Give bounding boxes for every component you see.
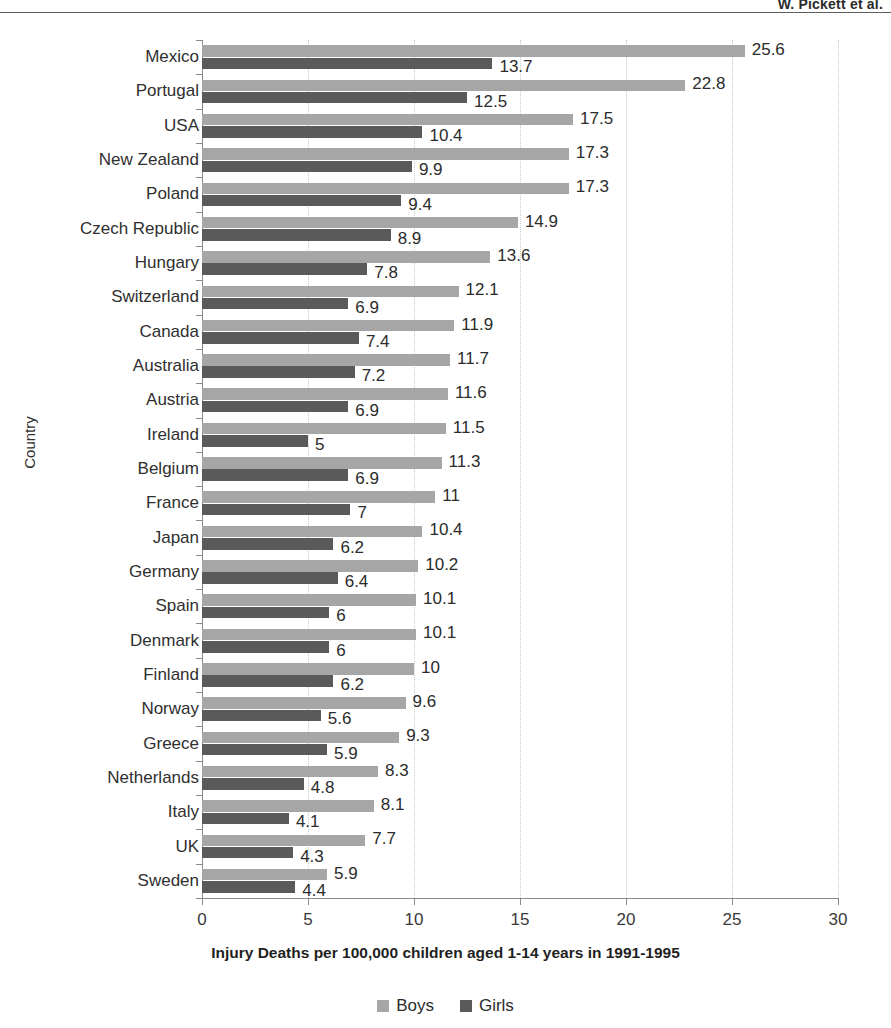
- value-label-girls: 4.4: [302, 881, 326, 901]
- value-label-girls: 6.2: [340, 675, 364, 695]
- y-axis-title: Country: [21, 398, 38, 488]
- category-label: Germany: [129, 562, 199, 582]
- value-label-boys: 7.7: [372, 829, 396, 849]
- category-label: Italy: [168, 802, 199, 822]
- value-label-girls: 6: [336, 606, 345, 626]
- x-tick-mark: [732, 898, 733, 905]
- value-label-boys: 12.1: [466, 280, 499, 300]
- legend-label: Girls: [479, 996, 514, 1016]
- x-tick-label: 0: [197, 910, 206, 930]
- x-tick-mark: [202, 898, 203, 905]
- y-tick-mark: [196, 658, 202, 659]
- bar-boys: [202, 45, 745, 57]
- value-label-boys: 17.3: [576, 143, 609, 163]
- bar-boys: [202, 732, 399, 744]
- value-label-boys: 5.9: [334, 864, 358, 884]
- bar-girls: [202, 641, 329, 653]
- bar-boys: [202, 148, 569, 160]
- bar-boys: [202, 629, 416, 641]
- x-tick-label: 20: [617, 910, 636, 930]
- category-label: Mexico: [145, 47, 199, 67]
- value-label-girls: 5.9: [334, 744, 358, 764]
- value-label-girls: 7.8: [374, 263, 398, 283]
- bar-girls: [202, 813, 289, 825]
- category-label: Netherlands: [107, 768, 199, 788]
- legend-swatch-icon: [377, 1000, 389, 1012]
- y-tick-mark: [196, 864, 202, 865]
- bar-girls: [202, 401, 348, 413]
- y-tick-mark: [196, 555, 202, 556]
- bar-boys: [202, 697, 406, 709]
- bar-girls: [202, 778, 304, 790]
- legend-swatch-icon: [460, 1000, 472, 1012]
- value-label-girls: 6: [336, 641, 345, 661]
- y-tick-mark: [196, 418, 202, 419]
- y-tick-mark: [196, 623, 202, 624]
- bar-chart: 051015202530 MexicoPortugalUSANew Zealan…: [0, 24, 891, 1028]
- value-label-boys: 8.3: [385, 761, 409, 781]
- x-tick-label: 10: [405, 910, 424, 930]
- category-label: Australia: [133, 356, 199, 376]
- bar-girls: [202, 607, 329, 619]
- bar-boys: [202, 491, 435, 503]
- bar-boys: [202, 766, 378, 778]
- legend-entry: Boys: [377, 996, 434, 1016]
- value-label-boys: 25.6: [752, 40, 785, 60]
- value-label-boys: 11.7: [457, 349, 489, 369]
- value-label-girls: 6.9: [355, 401, 379, 421]
- legend-label: Boys: [396, 996, 434, 1016]
- value-label-boys: 10.1: [423, 589, 456, 609]
- bar-boys: [202, 251, 490, 263]
- x-tick-label: 25: [723, 910, 742, 930]
- bar-girls: [202, 263, 367, 275]
- bar-boys: [202, 320, 454, 332]
- value-label-girls: 8.9: [398, 229, 422, 249]
- y-tick-mark: [196, 829, 202, 830]
- value-label-girls: 5: [315, 435, 324, 455]
- bar-boys: [202, 80, 685, 92]
- bar-boys: [202, 526, 422, 538]
- bar-boys: [202, 354, 450, 366]
- value-label-girls: 6.9: [355, 469, 379, 489]
- bar-girls: [202, 675, 333, 687]
- value-label-boys: 22.8: [692, 74, 725, 94]
- bar-boys: [202, 663, 414, 675]
- category-label: Switzerland: [111, 287, 199, 307]
- bar-girls: [202, 744, 327, 756]
- bar-girls: [202, 504, 350, 516]
- value-label-boys: 10: [421, 658, 440, 678]
- bar-girls: [202, 92, 467, 104]
- running-head: W. Pickett et al.: [778, 0, 883, 12]
- value-label-boys: 10.1: [423, 623, 456, 643]
- value-label-girls: 4.1: [296, 812, 320, 832]
- x-tick-label: 15: [511, 910, 530, 930]
- value-label-girls: 13.7: [499, 57, 532, 77]
- bar-boys: [202, 800, 374, 812]
- y-tick-mark: [196, 761, 202, 762]
- x-tick-mark: [414, 898, 415, 905]
- y-tick-mark: [196, 726, 202, 727]
- value-label-girls: 5.6: [328, 709, 352, 729]
- x-tick-mark: [838, 898, 839, 905]
- y-tick-mark: [196, 898, 202, 899]
- value-label-boys: 11.9: [461, 315, 493, 335]
- y-tick-mark: [196, 452, 202, 453]
- bar-girls: [202, 710, 321, 722]
- category-label: Poland: [146, 184, 199, 204]
- bar-boys: [202, 423, 446, 435]
- category-label: Austria: [146, 390, 199, 410]
- category-label: Japan: [153, 528, 199, 548]
- category-label: France: [146, 493, 199, 513]
- bar-girls: [202, 881, 295, 893]
- value-label-boys: 17.5: [580, 109, 613, 129]
- value-label-girls: 4.3: [300, 847, 324, 867]
- y-tick-mark: [196, 315, 202, 316]
- value-label-girls: 9.9: [419, 160, 443, 180]
- bar-girls: [202, 195, 401, 207]
- category-label: Finland: [143, 665, 199, 685]
- value-label-girls: 12.5: [474, 92, 507, 112]
- bar-boys: [202, 560, 418, 572]
- value-label-boys: 11: [442, 486, 460, 506]
- bar-girls: [202, 366, 355, 378]
- category-label: Greece: [143, 734, 199, 754]
